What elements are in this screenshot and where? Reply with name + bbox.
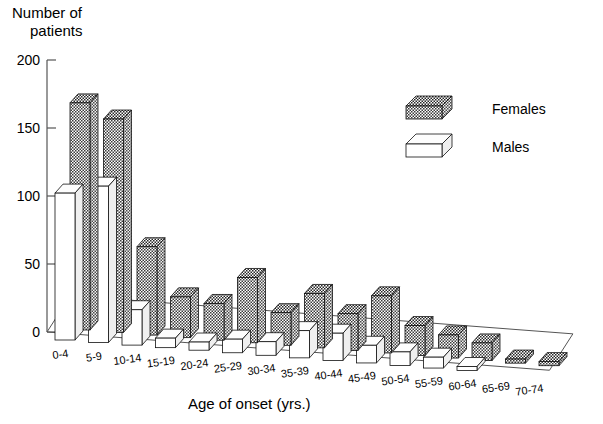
y-axis-title: Number of patients <box>12 4 83 39</box>
category-label: 45-49 <box>347 369 377 385</box>
y-tick-label: 200 <box>17 52 41 68</box>
bar-males-side <box>75 184 83 340</box>
category-label: 70-74 <box>515 382 545 398</box>
bar-chart: Number of patients 050100150200 0-45-910… <box>0 0 603 424</box>
legend: FemalesMales <box>406 96 546 157</box>
bar-females-side <box>90 94 98 330</box>
category-label: 5-9 <box>85 350 102 364</box>
category-label: 0-4 <box>52 347 69 361</box>
y-tick-label: 150 <box>17 120 41 136</box>
category-label: 40-44 <box>314 367 344 383</box>
category-label: 50-54 <box>381 372 411 388</box>
category-label: 25-29 <box>213 359 243 375</box>
bar-group <box>539 353 567 366</box>
y-tick-label: 100 <box>17 188 41 204</box>
y-axis: 050100150200 <box>17 52 56 340</box>
category-label: 10-14 <box>113 351 143 367</box>
bar-females-side <box>124 110 132 333</box>
bar-males-front <box>189 342 209 350</box>
category-label: 65-69 <box>481 379 511 395</box>
category-label: 35-39 <box>280 364 310 380</box>
bar-group <box>55 94 98 340</box>
bar-females-side <box>392 287 400 353</box>
category-label: 30-34 <box>247 361 277 377</box>
bar-group <box>506 350 534 363</box>
bar-males-front <box>156 338 176 348</box>
bar-males-front <box>457 367 477 371</box>
bar-females-side <box>258 268 266 342</box>
bar-females-front <box>539 362 559 366</box>
bar-males-front <box>223 339 243 353</box>
bar-males-front <box>256 342 276 356</box>
bar-males-front <box>55 193 75 340</box>
bar-females-side <box>157 238 165 335</box>
y-axis-title-line2: patients <box>30 22 83 39</box>
bar-males-front <box>390 352 410 366</box>
legend-label-females: Females <box>492 101 546 117</box>
legend-swatch-females-front <box>406 106 442 119</box>
y-tick-label: 0 <box>32 324 40 340</box>
category-label: 55-59 <box>414 374 444 390</box>
category-label: 20-24 <box>180 356 210 372</box>
x-axis-title: Age of onset (yrs.) <box>188 395 311 412</box>
legend-swatch-males-front <box>406 144 442 157</box>
bar-females-side <box>325 284 333 347</box>
bar-males-front <box>424 357 444 368</box>
chart-canvas: Number of patients 050100150200 0-45-910… <box>0 0 603 424</box>
y-tick-label: 50 <box>24 256 40 272</box>
bars-group <box>55 94 567 371</box>
category-label: 15-19 <box>146 354 176 370</box>
bar-females-side <box>191 288 199 338</box>
category-label: 60-64 <box>448 377 478 393</box>
y-axis-title-line1: Number of <box>12 4 83 21</box>
bar-males-side <box>109 177 117 342</box>
bar-females-front <box>506 359 526 363</box>
legend-label-males: Males <box>492 139 529 155</box>
